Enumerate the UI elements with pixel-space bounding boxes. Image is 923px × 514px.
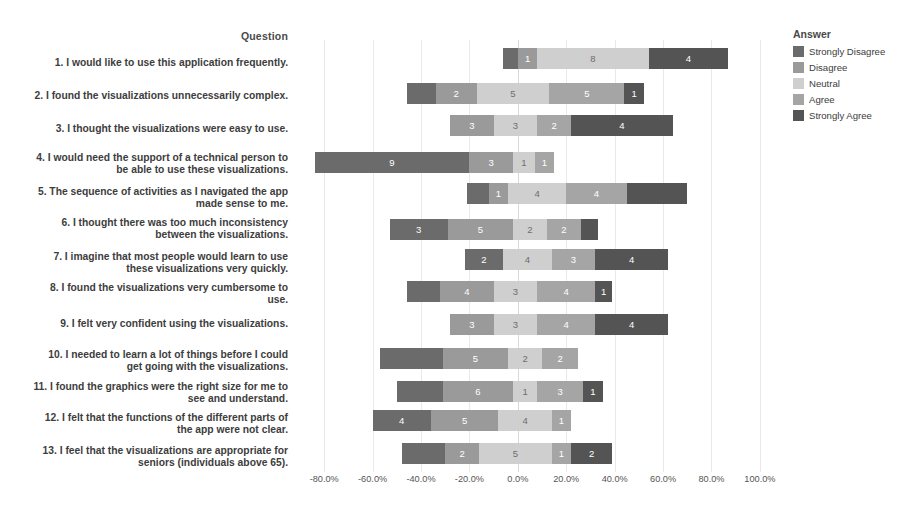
legend-swatch-icon xyxy=(793,110,804,121)
legend-title: Answer xyxy=(793,28,918,40)
x-axis-tick-label: -40.0% xyxy=(406,474,435,484)
legend-item-label: Neutral xyxy=(809,78,840,89)
legend-item[interactable]: Disagree xyxy=(793,61,918,74)
bar-segment: 5 xyxy=(431,410,499,431)
bar-segment: 2 xyxy=(436,83,477,104)
bar-row: 2512 xyxy=(300,443,772,464)
legend-item[interactable]: Agree xyxy=(793,93,918,106)
bar-row: 9311 xyxy=(300,152,772,173)
legend-swatch-icon xyxy=(793,78,804,89)
bar-segment: 1 xyxy=(513,381,537,402)
bar-segment: 1 xyxy=(535,152,554,173)
x-axis-tick-label: 0.0% xyxy=(507,474,528,484)
bar-segment: 4 xyxy=(373,410,431,431)
legend-item-label: Strongly Disagree xyxy=(809,46,885,57)
bar-segment: 5 xyxy=(477,83,550,104)
bar-segment: 3 xyxy=(494,314,538,335)
question-label: 1. I would like to use this application … xyxy=(0,57,288,69)
question-label: 13. I feel that the visualizations are a… xyxy=(0,445,288,470)
legend: Answer Strongly DisagreeDisagreeNeutralA… xyxy=(793,28,918,125)
bar-segment: 1 xyxy=(513,152,535,173)
bar-segment: 8 xyxy=(537,48,648,69)
question-column-header: Question xyxy=(0,30,288,42)
bar-segment xyxy=(380,348,443,369)
bar-segment: 4 xyxy=(595,314,668,335)
x-axis-tick-label: -80.0% xyxy=(310,474,339,484)
legend-swatch-icon xyxy=(793,46,804,57)
bar-segment: 4 xyxy=(566,183,627,204)
question-label: 11. I found the graphics were the right … xyxy=(0,381,288,406)
bar-segment: 6 xyxy=(443,381,513,402)
bar-segment: 1 xyxy=(583,381,602,402)
question-label: 6. I thought there was too much inconsis… xyxy=(0,217,288,242)
bar-segment: 2 xyxy=(465,249,504,270)
question-label: 7. I imagine that most people would lear… xyxy=(0,251,288,276)
legend-item-label: Disagree xyxy=(809,62,847,73)
bar-row: 3344 xyxy=(300,314,772,335)
bar-row: 184 xyxy=(300,48,772,69)
legend-swatch-icon xyxy=(793,94,804,105)
bar-segment: 3 xyxy=(494,281,538,302)
bar-segment: 2 xyxy=(445,443,479,464)
bar-segment: 1 xyxy=(552,410,571,431)
x-axis-tick-label: 80.0% xyxy=(698,474,724,484)
bar-segment: 4 xyxy=(649,48,729,69)
bar-segment: 5 xyxy=(549,83,624,104)
question-label: 2. I found the visualizations unnecessar… xyxy=(0,90,288,102)
legend-item-list: Strongly DisagreeDisagreeNeutralAgreeStr… xyxy=(793,45,918,122)
question-label: 4. I would need the support of a technic… xyxy=(0,152,288,177)
likert-chart: Question 1. I would like to use this app… xyxy=(0,0,923,514)
x-axis: -80.0%-60.0%-40.0%-20.0%0.0%20.0%40.0%60… xyxy=(300,474,772,494)
bar-segment xyxy=(467,183,489,204)
question-label: 8. I found the visualizations very cumbe… xyxy=(0,282,288,307)
bar-segment: 3 xyxy=(450,314,494,335)
bar-segment xyxy=(581,219,598,240)
bar-segment: 4 xyxy=(440,281,493,302)
legend-item[interactable]: Strongly Disagree xyxy=(793,45,918,58)
bar-segment: 3 xyxy=(469,152,513,173)
bar-segment: 1 xyxy=(518,48,537,69)
bar-segment: 3 xyxy=(450,115,494,136)
legend-item[interactable]: Neutral xyxy=(793,77,918,90)
legend-item-label: Agree xyxy=(809,94,835,105)
bar-segment: 2 xyxy=(513,219,547,240)
bar-segment: 4 xyxy=(537,281,595,302)
bar-segment: 4 xyxy=(537,314,595,335)
bar-row: 4541 xyxy=(300,410,772,431)
bar-segment: 4 xyxy=(571,115,673,136)
bar-segment: 2 xyxy=(571,443,612,464)
bar-segment: 5 xyxy=(443,348,508,369)
bar-segment: 2 xyxy=(508,348,542,369)
bar-segment: 5 xyxy=(448,219,513,240)
bar-row: 2434 xyxy=(300,249,772,270)
bar-segment: 4 xyxy=(595,249,668,270)
question-label: 9. I felt very confident using the visua… xyxy=(0,318,288,330)
bar-segment: 1 xyxy=(552,443,571,464)
bar-segment: 2 xyxy=(547,219,581,240)
bar-segment: 4 xyxy=(508,183,566,204)
bar-segment xyxy=(407,83,436,104)
legend-item[interactable]: Strongly Agree xyxy=(793,109,918,122)
bar-segment: 2 xyxy=(542,348,578,369)
bar-segment: 1 xyxy=(595,281,612,302)
bar-segment xyxy=(397,381,443,402)
bar-segment xyxy=(407,281,441,302)
bar-segment: 3 xyxy=(390,219,448,240)
bar-segment xyxy=(503,48,518,69)
bar-segment: 3 xyxy=(537,381,583,402)
bar-segment: 4 xyxy=(498,410,551,431)
question-label: 3. I thought the visualizations were eas… xyxy=(0,123,288,135)
bar-segment: 4 xyxy=(503,249,551,270)
bar-segment: 1 xyxy=(624,83,643,104)
x-axis-tick-label: -20.0% xyxy=(455,474,484,484)
bar-segment xyxy=(402,443,446,464)
bar-row: 4341 xyxy=(300,281,772,302)
bar-row: 3522 xyxy=(300,219,772,240)
plot-area: 1842551332493111443522243443413344522613… xyxy=(300,40,772,472)
bar-segment: 2 xyxy=(537,115,571,136)
bar-segment: 3 xyxy=(494,115,538,136)
question-label: 10. I needed to learn a lot of things be… xyxy=(0,349,288,374)
question-label: 5. The sequence of activities as I navig… xyxy=(0,186,288,211)
bar-segment: 5 xyxy=(479,443,552,464)
bar-segment: 1 xyxy=(489,183,508,204)
